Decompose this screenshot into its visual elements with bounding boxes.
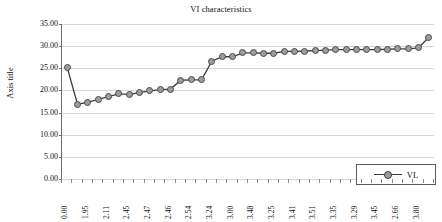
x-axis-tick-mark [71, 179, 72, 183]
x-axis-tick-label: 3.25 [268, 206, 276, 219]
data-point[interactable] [374, 46, 381, 53]
data-point[interactable] [270, 50, 277, 57]
data-point[interactable] [239, 49, 246, 56]
plot-area: VL [61, 24, 434, 180]
x-axis-tick-mark [247, 179, 248, 183]
x-axis-tick-label: 3.48 [247, 206, 255, 219]
x-axis-tick-label: 3.45 [371, 206, 379, 219]
x-axis-tick-mark [102, 179, 103, 183]
legend-marker-icon [374, 171, 402, 179]
legend-label-vl: VL [407, 170, 418, 180]
y-axis-tick-label: 35.00 [40, 20, 58, 28]
data-point[interactable] [322, 47, 329, 54]
data-point[interactable] [105, 93, 112, 100]
data-point[interactable] [198, 76, 205, 83]
x-axis-tick-mark [185, 179, 186, 183]
data-point[interactable] [146, 87, 153, 94]
x-axis-tick-label: 0.00 [61, 206, 69, 219]
data-point[interactable] [115, 90, 122, 97]
x-axis-tick-mark [350, 179, 351, 183]
data-point[interactable] [95, 96, 102, 103]
x-axis-tick-mark [330, 179, 331, 183]
x-axis-tick-mark [133, 179, 134, 183]
data-point[interactable] [343, 46, 350, 53]
x-axis-tick-mark [392, 179, 393, 183]
x-axis-tick-mark [268, 179, 269, 183]
data-point[interactable] [188, 76, 195, 83]
x-axis-tick-label: 3.51 [309, 206, 317, 219]
x-axis-tick-label: 3.41 [289, 206, 297, 219]
y-axis-tick-mark [59, 24, 62, 25]
x-axis-tick-label: 3.24 [206, 206, 214, 219]
x-axis-tick-mark [226, 179, 227, 183]
x-axis-tick-mark [361, 179, 362, 183]
data-point[interactable] [167, 86, 174, 93]
x-axis-tick-mark [123, 179, 124, 183]
data-point[interactable] [394, 45, 401, 52]
y-axis-tick-label: 20.00 [40, 86, 58, 94]
x-axis-tick-mark [371, 179, 372, 183]
x-axis-tick-label: 2.45 [123, 206, 131, 219]
y-axis-tick-label: 15.00 [40, 109, 58, 117]
x-axis-tick-mark [381, 179, 382, 183]
x-axis-tick-label: 2.54 [185, 206, 193, 219]
data-point[interactable] [405, 45, 412, 52]
data-point[interactable] [126, 91, 133, 98]
x-axis-tick-labels: 0.001.952.112.452.472.462.543.243.003.48… [61, 185, 433, 219]
data-point[interactable] [260, 50, 267, 57]
data-point[interactable] [415, 44, 422, 51]
data-point[interactable] [301, 48, 308, 55]
data-point[interactable] [219, 53, 226, 60]
x-axis-tick-label: 1.95 [82, 206, 90, 219]
x-axis-tick-mark [61, 179, 62, 183]
y-axis-tick-mark [59, 157, 62, 158]
x-axis-tick-label: 3.29 [351, 206, 359, 219]
x-axis-tick-mark [144, 179, 145, 183]
data-point[interactable] [281, 48, 288, 55]
x-axis-tick-mark [340, 179, 341, 183]
x-axis-tick-mark [175, 179, 176, 183]
data-point[interactable] [84, 99, 91, 106]
y-axis-tick-mark [59, 90, 62, 91]
x-axis-tick-mark [82, 179, 83, 183]
chart-title: VI characteristics [0, 4, 442, 14]
data-point[interactable] [136, 89, 143, 96]
x-axis-tick-mark [299, 179, 300, 183]
x-axis-tick-mark [319, 179, 320, 183]
y-axis-tick-label: 25.00 [40, 64, 58, 72]
data-point[interactable] [291, 48, 298, 55]
y-axis-tick-mark [59, 46, 62, 47]
y-axis-title: Axis title [5, 48, 15, 118]
data-point[interactable] [332, 46, 339, 53]
y-axis-tick-labels: 0.005.0010.0015.0020.0025.0030.0035.00 [22, 24, 58, 179]
x-axis-tick-mark [402, 179, 403, 183]
data-point[interactable] [250, 49, 257, 56]
x-axis-tick-mark [195, 179, 196, 183]
data-point[interactable] [353, 46, 360, 53]
x-axis-tick-mark [288, 179, 289, 183]
data-point[interactable] [363, 46, 370, 53]
data-point[interactable] [64, 64, 71, 71]
x-axis-tick-mark [92, 179, 93, 183]
data-point[interactable] [312, 47, 319, 54]
data-point[interactable] [425, 34, 432, 41]
x-axis-tick-mark [423, 179, 424, 183]
x-axis-tick-label: 3.35 [330, 206, 338, 219]
x-axis-tick-label: 3.80 [413, 206, 421, 219]
data-point[interactable] [74, 101, 81, 108]
data-point[interactable] [157, 86, 164, 93]
y-axis-tick-label: 5.00 [44, 153, 58, 161]
data-point[interactable] [384, 46, 391, 53]
x-axis-tick-label: 2.66 [392, 206, 400, 219]
data-point[interactable] [229, 53, 236, 60]
x-axis-tick-mark [164, 179, 165, 183]
data-point[interactable] [177, 77, 184, 84]
y-axis-tick-label: 0.00 [44, 175, 58, 183]
y-axis-tick-label: 10.00 [40, 131, 58, 139]
y-axis-tick-mark [59, 135, 62, 136]
y-axis-tick-mark [59, 113, 62, 114]
x-axis-tick-mark [433, 179, 434, 183]
series-markers-vl [62, 24, 434, 179]
data-point[interactable] [208, 58, 215, 65]
x-axis-tick-mark [237, 179, 238, 183]
